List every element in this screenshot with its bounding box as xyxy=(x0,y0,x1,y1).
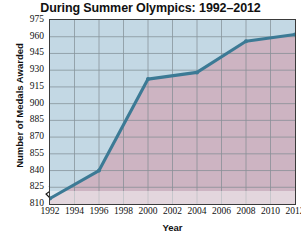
x-axis-title: Year xyxy=(49,222,296,233)
x-tick-label: 1998 xyxy=(114,206,133,217)
y-tick-label: 945 xyxy=(30,48,44,57)
bottom-highlight-band xyxy=(50,191,295,204)
y-tick-label: 930 xyxy=(30,65,44,74)
chart-canvas xyxy=(50,20,295,204)
y-tick-label: 885 xyxy=(30,115,44,124)
x-tick-label: 2010 xyxy=(261,206,280,217)
x-tick-label: 2008 xyxy=(237,206,256,217)
y-tick-label: 975 xyxy=(30,15,44,24)
x-tick-label: 1994 xyxy=(65,206,84,217)
x-tick-label: 2004 xyxy=(188,206,207,217)
chart-title: During Summer Olympics: 1992–2012 xyxy=(0,1,301,15)
x-tick-label: 2002 xyxy=(163,206,182,217)
plot-area xyxy=(49,19,296,205)
y-tick-label: 915 xyxy=(30,82,44,91)
data-point-marker xyxy=(146,77,150,81)
plot-inner xyxy=(50,20,295,204)
y-tick-label: 855 xyxy=(30,149,44,158)
x-axis-tick-labels: 1992199419961998200020022004200620082010… xyxy=(0,206,301,220)
data-point-marker xyxy=(97,169,101,173)
y-tick-label: 870 xyxy=(30,132,44,141)
data-point-marker xyxy=(195,70,199,74)
x-tick-label: 1996 xyxy=(90,206,109,217)
x-tick-label: 1992 xyxy=(41,206,60,217)
y-tick-label: 840 xyxy=(30,166,44,175)
x-tick-label: 2000 xyxy=(139,206,158,217)
y-tick-label: 900 xyxy=(30,99,44,108)
chart-figure: During Summer Olympics: 1992–2012 Number… xyxy=(0,0,301,249)
y-axis-tick-labels: 810825840855870885900915930945960975 xyxy=(0,19,47,205)
x-tick-label: 2006 xyxy=(212,206,231,217)
y-tick-label: 960 xyxy=(30,32,44,41)
data-point-marker xyxy=(244,39,248,43)
x-tick-label: 2012 xyxy=(286,206,302,217)
